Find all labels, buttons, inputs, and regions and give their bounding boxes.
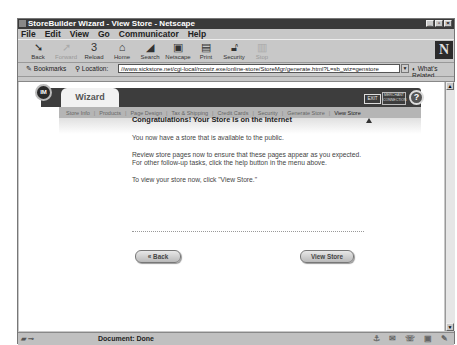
page-heading: Congratulations! Your Store is on the In… — [132, 115, 364, 124]
component-bar: ⚓︎ ✉︎ ☏︎ ▣ ✎ — [373, 334, 448, 343]
minimize-button[interactable]: _ — [426, 20, 434, 27]
message-paragraph-2: Review store pages now to ensure that th… — [132, 151, 364, 167]
home-toolbar-button[interactable]: ⌂Home — [108, 40, 136, 62]
current-step-indicator-icon — [366, 118, 372, 123]
search-toolbar-button[interactable]: ◢Search — [136, 40, 164, 62]
stop-icon: ▥ — [256, 42, 268, 53]
back-button[interactable]: « Back — [135, 250, 181, 263]
print-toolbar-button[interactable]: ▤Print — [192, 40, 220, 62]
print-icon: ▤ — [200, 42, 212, 53]
menu-file[interactable]: File — [21, 29, 36, 39]
status-bar: ▰ ⊸ Document: Done ⚓︎ ✉︎ ☏︎ ▣ ✎ — [18, 332, 454, 345]
logo-icon: IM — [35, 84, 52, 101]
scroll-up-button[interactable]: ▲ — [446, 82, 454, 90]
title-bar: StoreBuilder Wizard - View Store - Netsc… — [18, 19, 454, 29]
back-icon: ➘ — [32, 42, 44, 53]
message-paragraph-1: You now have a store that is available t… — [132, 134, 364, 142]
security-lock-icon[interactable]: ▰ ⊸ — [21, 335, 34, 343]
menu-edit[interactable]: Edit — [45, 29, 61, 39]
reload-toolbar-button[interactable]: 3Reload — [80, 40, 108, 62]
menu-communicator[interactable]: Communicator — [119, 29, 179, 39]
status-text: Document: Done — [98, 335, 154, 342]
maximize-button[interactable]: ▫ — [435, 20, 443, 27]
forward-icon: ➚ — [60, 42, 72, 53]
location-bar: ✎ Bookmarks ⚲ Location: //www.sickstore.… — [18, 62, 454, 77]
netscape-icon: ▣ — [172, 42, 184, 53]
groups-icon[interactable]: ☏︎ — [405, 334, 415, 343]
navigator-icon[interactable]: ⚓︎ — [373, 334, 380, 343]
step-store-info[interactable]: Store Info — [66, 110, 90, 116]
wizard-tab: Wizard — [61, 88, 119, 107]
message-paragraph-3: To view your store now, click "View Stor… — [132, 176, 364, 184]
step-products[interactable]: Products — [99, 110, 121, 116]
netscape-toolbar-button[interactable]: ▣Netscape — [164, 40, 192, 62]
back-toolbar-button[interactable]: ➘Back — [24, 40, 52, 62]
security-icon: 🔓︎ — [228, 42, 240, 53]
system-menu-icon[interactable] — [19, 20, 26, 27]
menu-help[interactable]: Help — [188, 29, 206, 39]
netscape-logo[interactable]: N — [435, 41, 453, 59]
address-book-icon[interactable]: ▣ — [424, 334, 432, 343]
url-dropdown-button[interactable]: ▼ — [401, 64, 409, 73]
location-icon: ⚲ — [75, 65, 82, 72]
security-toolbar-button[interactable]: 🔓︎Security — [220, 40, 248, 62]
menu-bar: File Edit View Go Communicator Help — [18, 29, 454, 39]
navigation-toolbar: ➘Back ➚Forward 3Reload ⌂Home ◢Search ▣Ne… — [18, 39, 454, 63]
menu-view[interactable]: View — [70, 29, 89, 39]
mail-icon[interactable]: ✉︎ — [389, 334, 396, 343]
divider — [132, 231, 364, 232]
page-content: IM Wizard EXIT MERCHANT CONNECTION ? Sto… — [19, 82, 444, 331]
bookmarks-button[interactable]: ✎ Bookmarks — [26, 65, 66, 73]
message-panel: Congratulations! Your Store is on the In… — [132, 115, 364, 193]
browser-window: StoreBuilder Wizard - View Store - Netsc… — [17, 18, 455, 344]
exit-button[interactable]: EXIT — [364, 94, 381, 104]
url-input[interactable]: //www.sickstore.net/cgi-local/rccwiz.exe… — [118, 64, 400, 73]
search-icon: ◢ — [144, 42, 156, 53]
vertical-scrollbar[interactable]: ▲ ▼ — [445, 82, 455, 331]
location-label: ⚲ Location: — [75, 65, 108, 73]
window-title: StoreBuilder Wizard - View Store - Netsc… — [28, 19, 195, 28]
view-store-button[interactable]: View Store — [300, 250, 354, 263]
reload-icon: 3 — [88, 42, 100, 53]
home-icon: ⌂ — [116, 42, 128, 53]
scroll-down-button[interactable]: ▼ — [446, 323, 454, 331]
menu-go[interactable]: Go — [98, 29, 110, 39]
merchant-connection-button[interactable]: MERCHANT CONNECTION — [382, 92, 406, 105]
bookmarks-icon: ✎ — [26, 65, 34, 72]
composer-icon[interactable]: ✎ — [441, 334, 448, 343]
help-button[interactable]: ? — [409, 90, 424, 105]
stop-toolbar-button[interactable]: ▥Stop — [248, 40, 276, 62]
forward-toolbar-button[interactable]: ➚Forward — [52, 40, 80, 62]
close-button[interactable]: × — [444, 20, 452, 27]
